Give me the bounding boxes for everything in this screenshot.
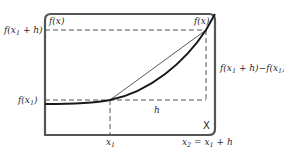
plot-frame xyxy=(45,14,215,135)
f-x1-label: f(x1) xyxy=(17,95,38,107)
f-x1-plus-h-label: f(x1 + h) xyxy=(3,25,43,37)
function-curve xyxy=(45,14,215,104)
x-axis-marker: X xyxy=(203,120,210,131)
secant-diagram: f(x) f(x) f(x1 + h) f(x1) h X x1 x2 = x1… xyxy=(0,0,284,148)
delta-f-label: f(x1 + h)−f(x1) xyxy=(219,63,284,75)
x2-label: x2 = x1 + h xyxy=(182,137,233,148)
x1-label: x1 xyxy=(106,137,115,148)
h-label: h xyxy=(154,105,160,115)
y-axis-label: f(x) xyxy=(48,16,65,26)
secant-line xyxy=(110,30,206,100)
curve-end-label: f(x) xyxy=(193,16,210,26)
